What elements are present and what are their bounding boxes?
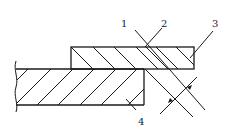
- label-4: 4: [138, 116, 144, 127]
- label-1: 1: [121, 18, 127, 29]
- lower-plate-hatching: [17, 69, 144, 105]
- thickness-dimension: [160, 77, 197, 114]
- upper-plate: [71, 47, 198, 69]
- label-3: 3: [212, 18, 218, 29]
- lower-plate: [15, 61, 144, 112]
- upper-plate-hatching: [71, 47, 198, 69]
- label-2: 2: [161, 18, 167, 29]
- lap-joint-diagram: 1 2 3 4: [0, 0, 228, 131]
